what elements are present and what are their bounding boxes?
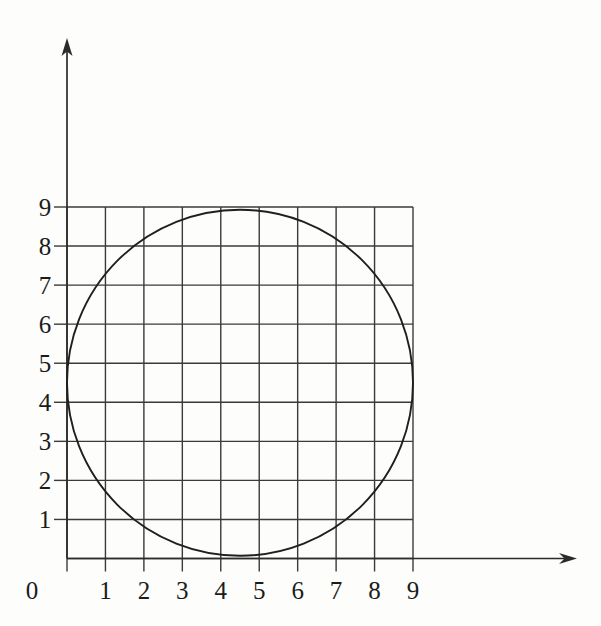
y-axis-tick-label: 2 xyxy=(39,467,52,494)
y-axis-tick-label: 9 xyxy=(39,194,52,221)
y-axis-labels: 123456789 xyxy=(39,194,52,533)
y-axis-tick-label: 5 xyxy=(39,350,52,377)
x-axis-tick-label: 1 xyxy=(99,577,112,604)
y-axis-tick-label: 8 xyxy=(39,233,52,260)
y-axis-tick-label: 7 xyxy=(39,272,52,299)
x-axis-tick-label: 9 xyxy=(407,577,420,604)
x-axis-tick-label: 6 xyxy=(291,577,304,604)
y-axis-tick-label: 6 xyxy=(39,311,52,338)
x-axis-tick-label: 3 xyxy=(176,577,189,604)
y-axis-tick-label: 1 xyxy=(39,506,52,533)
figure-canvas: 0123456789 123456789 xyxy=(0,0,601,626)
y-axis-tick-label: 4 xyxy=(39,389,52,416)
coordinate-grid-figure: 0123456789 123456789 xyxy=(0,0,601,626)
x-axis-tick-label: 0 xyxy=(26,577,39,604)
figure-background xyxy=(0,0,601,626)
x-axis-tick-label: 8 xyxy=(368,577,381,604)
x-axis-tick-label: 4 xyxy=(215,577,228,604)
x-axis-tick-label: 2 xyxy=(138,577,151,604)
y-axis-tick-label: 3 xyxy=(39,428,52,455)
x-axis-tick-label: 5 xyxy=(253,577,266,604)
x-axis-tick-label: 7 xyxy=(330,577,343,604)
